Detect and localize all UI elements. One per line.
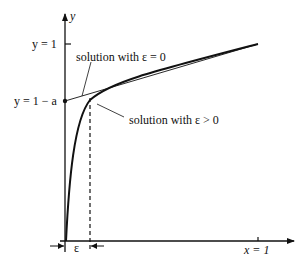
y-axis-label: y bbox=[69, 9, 76, 23]
solution-eps-pos-curve bbox=[66, 44, 258, 241]
eps-zero-label: solution with ε = 0 bbox=[76, 50, 166, 64]
eps-pos-label: solution with ε > 0 bbox=[129, 113, 219, 127]
leader-eps-pos bbox=[97, 104, 124, 117]
initial-point-dot bbox=[63, 99, 67, 103]
boundary-layer-diagram: y y = 1 y = 1 − a solution with ε = 0 so… bbox=[0, 0, 300, 271]
y-tick-mid-label: y = 1 − a bbox=[14, 94, 58, 108]
x-tick-one-label: x = 1 bbox=[243, 243, 269, 257]
eps-width-label: ε bbox=[74, 241, 79, 255]
leader-eps-zero bbox=[82, 62, 91, 96]
y-tick-one-label: y = 1 bbox=[32, 37, 57, 51]
